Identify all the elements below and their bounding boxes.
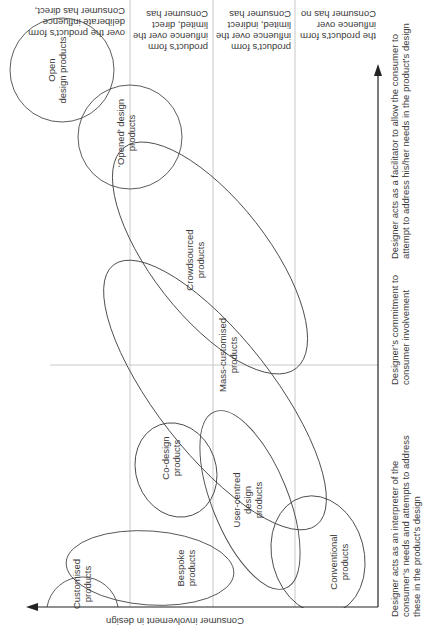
label-co-design-2: products — [171, 440, 182, 477]
x-axis-label-interpreter-3: these in the product’s design — [411, 496, 422, 617]
label-user-centred-3: products — [253, 482, 264, 519]
label-opened: ‘Opened’ design — [115, 99, 126, 167]
label-opened-2: products — [126, 115, 137, 152]
level-label-limited-indirect: Consumer has — [229, 9, 291, 20]
label-user-centred: User-centred — [231, 473, 242, 528]
level-label-no-influence-2: influence over — [317, 20, 376, 31]
x-axis-label-commitment: Designer’s commitment to — [389, 275, 400, 385]
label-bespoke: Bespoke — [175, 550, 186, 587]
level-label-limited-indirect-4: product’s form — [231, 42, 291, 53]
level-label-no-influence-3: the product’s form — [300, 31, 376, 42]
label-customised-2: products — [82, 566, 93, 603]
mass-customised-ellipse — [68, 229, 363, 560]
x-axis-label-interpreter-2: consumer’s needs and attempts to address — [400, 435, 411, 617]
x-axis-label-facilitator-2: attempt to address his/her needs in the … — [400, 23, 411, 259]
level-label-direct-deliberate-2: deliberate influence — [43, 17, 125, 28]
label-crowdsourced: Crowdsourced — [184, 229, 195, 290]
x-axis-label-interpreter: Designer acts as an interpreter of the — [389, 461, 400, 617]
level-label-no-influence: Consumer has no — [301, 9, 376, 20]
conventional-ellipse — [258, 485, 378, 625]
x-axis-label-commitment-2: consumer involvement — [400, 290, 411, 385]
x-axis-label-facilitator: Designer acts as a facilitator to allow … — [389, 34, 400, 259]
label-open-2: design products — [57, 36, 68, 103]
label-mass-customised-2: products — [228, 337, 239, 374]
y-axis-label: Consumer involvement in design — [106, 616, 244, 627]
level-label-limited-direct-2: limited, direct — [152, 20, 208, 31]
level-label-limited-direct: Consumer has — [146, 9, 208, 20]
level-label-direct-deliberate-3: over the product’s form — [28, 28, 125, 39]
label-mass-customised: Mass-customised — [217, 318, 228, 392]
level-label-limited-indirect-3: influence over the — [216, 31, 291, 42]
level-label-limited-direct-3: influence over the — [133, 31, 208, 42]
label-conventional-2: products — [339, 544, 350, 581]
label-bespoke-2: products — [186, 550, 197, 587]
level-label-limited-direct-4: product’s form — [148, 42, 208, 53]
label-crowdsourced-2: products — [195, 242, 206, 279]
level-label-limited-indirect-2: limited, indirect — [227, 20, 291, 31]
label-open: Open — [46, 58, 57, 81]
level-label-direct-deliberate: Consumer has direct, — [35, 6, 125, 17]
label-co-design: Co-design — [160, 436, 171, 479]
product-design-diagram: Consumer involvement in design Designer … — [0, 0, 427, 629]
label-conventional: Conventional — [328, 534, 339, 589]
label-customised: Customised — [71, 559, 82, 609]
label-user-centred-2: design — [242, 486, 253, 514]
